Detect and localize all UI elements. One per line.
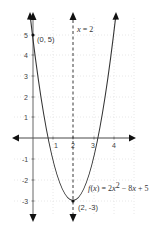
parabola-chart: 1 2 3 4 5 4 3 2 1 -1 -2 -3 x = 2 (0, 0, 168, 229)
y-tick-label: 4 (24, 52, 28, 59)
y-intercept-point: (0, 5) (31, 33, 55, 44)
function-label: f(x) = 2x2 − 8x + 5 (88, 181, 149, 193)
y-tick-label: -2 (22, 177, 28, 184)
arrow-down-icon (70, 214, 77, 222)
axis-of-symmetry-label: x = 2 (76, 24, 93, 34)
y-intercept-label: (0, 5) (37, 35, 55, 44)
vertex-point: (2, -3) (71, 199, 98, 212)
y-tick-label: 3 (24, 73, 28, 80)
y-tick-label: 1 (24, 114, 28, 121)
x-tick-label: 3 (91, 142, 95, 149)
arrow-right-icon (129, 135, 136, 142)
y-tick-label: 5 (24, 32, 28, 39)
x-tick-label: 4 (112, 142, 116, 149)
arrow-left-icon (12, 135, 19, 142)
x-tick-label: 1 (54, 142, 58, 149)
arrow-up-icon (113, 12, 120, 20)
x-axis: 1 2 3 4 (12, 135, 136, 150)
y-tick-label: 2 (24, 94, 28, 101)
vertex-label: (2, -3) (78, 203, 99, 212)
y-tick-label: -1 (22, 156, 28, 163)
y-tick-label: -3 (22, 198, 28, 205)
arrow-up-icon (70, 12, 77, 20)
arrow-down-icon (30, 214, 37, 222)
